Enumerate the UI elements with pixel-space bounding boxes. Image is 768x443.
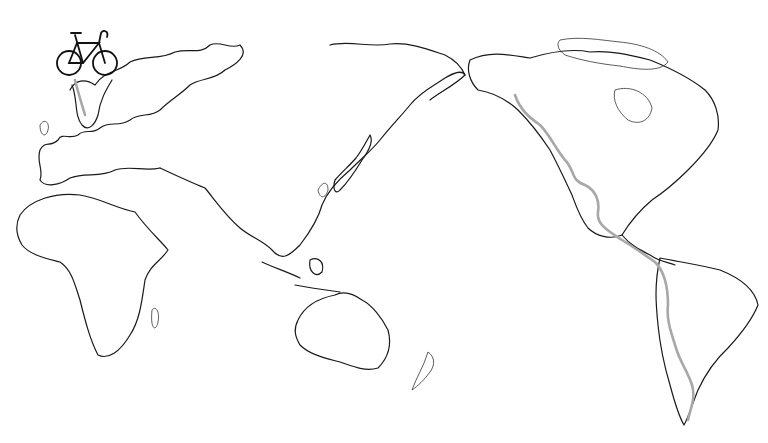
asia-coast <box>160 72 465 256</box>
australia-coast <box>295 293 389 369</box>
bicycle-icon <box>57 31 117 75</box>
siberia-coast <box>330 43 465 75</box>
hudson-bay-coast <box>614 88 652 122</box>
britain-coast <box>40 121 48 134</box>
europe-coast <box>39 44 243 185</box>
japan-coast <box>334 135 371 192</box>
indonesia-coast <box>262 259 340 292</box>
world-map <box>0 0 768 443</box>
north-america-coast <box>468 50 718 237</box>
central-america-coast <box>622 235 675 265</box>
africa-coast <box>17 194 168 356</box>
greenland-coast <box>558 38 668 69</box>
south-america-coast <box>656 258 758 425</box>
new-zealand-coast <box>412 352 434 390</box>
world-map-illustration <box>0 0 768 443</box>
korea-coast <box>318 183 328 197</box>
madagascar-coast <box>152 308 159 328</box>
